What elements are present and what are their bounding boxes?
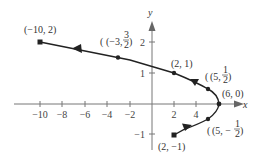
svg-text:): ) — [240, 125, 243, 137]
x-tick-label: −10 — [32, 109, 48, 120]
x-tick-label: −2 — [125, 109, 136, 120]
x-axis-label: x — [242, 99, 248, 110]
curve-points — [38, 40, 222, 138]
point-label-frac: ( (5, 1 2 ) — [205, 64, 231, 85]
point-label: (5, — [210, 71, 221, 83]
svg-text:): ) — [129, 36, 132, 48]
direction-arrow-icon — [72, 44, 82, 53]
point-label: (−3, — [106, 36, 122, 48]
svg-text:): ) — [228, 71, 231, 83]
y-tick-label: 1 — [140, 68, 145, 79]
point-label: (5, − — [212, 125, 231, 137]
y-axis-label: y — [147, 7, 153, 18]
svg-text:(: ( — [207, 125, 211, 137]
point-label: (2, 1) — [171, 58, 193, 70]
point-label: (6, 0) — [222, 88, 244, 100]
y-tick-label: 2 — [140, 37, 145, 48]
svg-text:(: ( — [205, 71, 209, 83]
x-tick-label: 4 — [194, 109, 199, 120]
parametric-curve — [40, 42, 219, 135]
svg-text:(: ( — [100, 36, 104, 48]
parametric-curve-figure: x y −10 −8 −6 −4 −2 2 4 2 1 −1 — [0, 0, 260, 160]
x-tick-label: −8 — [57, 109, 68, 120]
point-label: (−10, 2) — [24, 24, 56, 36]
point-label-frac: ( (−3, 3 2 ) — [100, 29, 132, 50]
x-tick-label: 2 — [172, 109, 177, 120]
x-tick-label: −6 — [80, 109, 91, 120]
direction-arrow-icon — [190, 79, 199, 86]
point-label: (2, −1) — [158, 141, 185, 153]
y-tick-label: −1 — [134, 129, 145, 140]
point-label-frac: ( (5, − 1 2 ) — [207, 118, 243, 139]
x-tick-label: −4 — [102, 109, 113, 120]
y-axis-arrow-icon — [149, 21, 156, 31]
